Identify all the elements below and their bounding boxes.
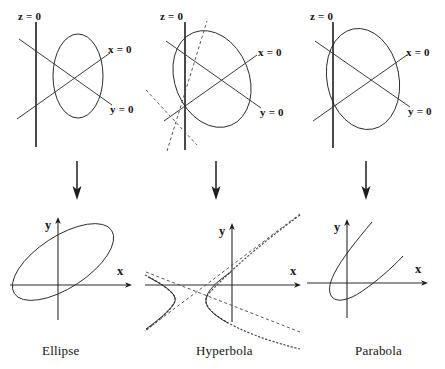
label-x-equals-zero-2: x = 0 — [258, 47, 282, 58]
panel-parabola-cut — [313, 22, 410, 148]
caption-parabola: Parabola — [355, 344, 402, 357]
label-y-equals-zero-1: y = 0 — [110, 104, 134, 115]
hyperbola-asymptote-2 — [146, 272, 300, 332]
hyperbola-branch-right-solid — [206, 272, 231, 323]
y-plane-line-3 — [315, 41, 410, 107]
panel-ellipse-cut — [17, 22, 112, 147]
cone-section-ellipse-outline-2 — [159, 19, 265, 139]
panel-parabola-plot — [307, 219, 428, 318]
label-z-equals-zero-3: z = 0 — [310, 11, 333, 22]
asymptote-dashed-2 — [146, 90, 197, 145]
label-z-equals-zero-1: z = 0 — [18, 11, 41, 22]
asymptote-dashed-1 — [167, 21, 207, 151]
arrow-down-3 — [362, 161, 371, 200]
label-z-equals-zero-2: z = 0 — [160, 11, 183, 22]
hyperbola-x-axis-label: x — [290, 265, 296, 278]
panel-ellipse-plot — [0, 209, 132, 320]
arrow-down-2 — [212, 161, 221, 200]
y-plane-line-1 — [19, 39, 112, 105]
figure-canvas — [0, 0, 445, 369]
conic-sections-figure: z = 0 x = 0 y = 0 z = 0 x = 0 y = 0 z = … — [0, 0, 445, 369]
hyperbola-y-axis-label: y — [219, 225, 225, 238]
label-x-equals-zero-3: x = 0 — [406, 47, 430, 58]
cone-section-ellipse-outline-3 — [318, 22, 408, 136]
caption-ellipse: Ellipse — [42, 344, 80, 357]
arrow-down-1 — [73, 161, 82, 200]
label-y-equals-zero-3: y = 0 — [408, 106, 432, 117]
label-y-equals-zero-2: y = 0 — [260, 107, 284, 118]
ellipse-curve — [0, 209, 126, 316]
caption-hyperbola: Hyperbola — [196, 344, 253, 357]
x-plane-line-2 — [164, 55, 257, 121]
parabola-curve — [330, 222, 403, 300]
x-plane-line-1 — [17, 53, 110, 119]
label-x-equals-zero-1: x = 0 — [108, 44, 132, 55]
parabola-y-axis-label: y — [334, 221, 340, 234]
parabola-x-axis-label: x — [415, 263, 421, 276]
panel-hyperbola-cut — [146, 19, 265, 151]
ellipse-x-axis-label: x — [117, 265, 123, 278]
ellipse-y-axis-label: y — [45, 219, 51, 232]
